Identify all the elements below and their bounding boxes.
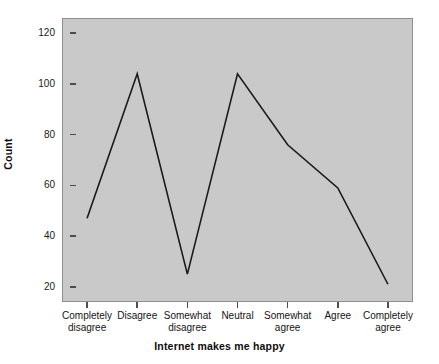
x-tick-label: Completely agree — [340, 310, 436, 333]
y-tick-mark — [70, 286, 76, 288]
line-chart: Count 20406080100120 Completely disagree… — [0, 0, 439, 364]
x-tick-mark — [287, 302, 289, 308]
x-tick-mark — [337, 302, 339, 308]
y-tick-mark — [70, 185, 76, 187]
x-tick-mark — [237, 302, 239, 308]
y-tick-label: 40 — [44, 231, 55, 241]
x-tick-mark — [187, 302, 189, 308]
y-tick-mark — [70, 235, 76, 237]
y-tick-label: 80 — [44, 130, 55, 140]
x-axis-title: Internet makes me happy — [0, 340, 439, 352]
y-tick-label: 20 — [44, 282, 55, 292]
y-tick-mark — [70, 134, 76, 136]
y-tick-label: 60 — [44, 180, 55, 190]
x-tick-mark — [387, 302, 389, 308]
y-tick-mark — [70, 83, 76, 85]
y-tick-label: 100 — [38, 79, 55, 89]
plot-area — [62, 18, 413, 302]
y-tick-mark — [70, 32, 76, 34]
y-tick-label: 120 — [38, 28, 55, 38]
y-axis-title: Count — [2, 138, 14, 169]
x-tick-mark — [136, 302, 138, 308]
x-tick-mark — [86, 302, 88, 308]
